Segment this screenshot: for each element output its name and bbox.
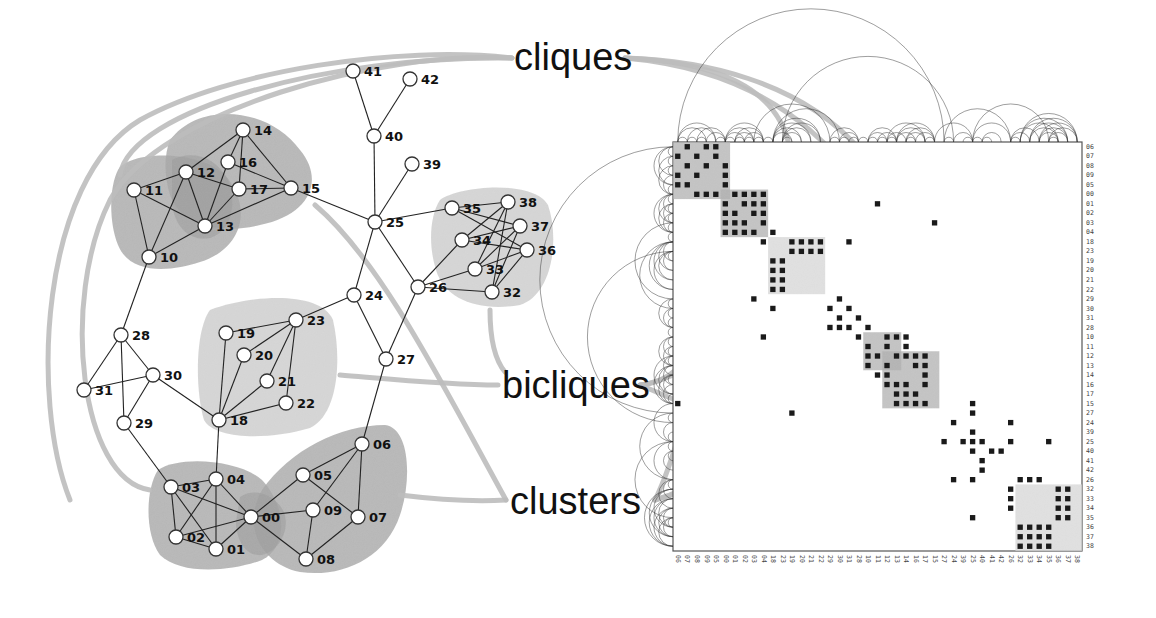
node-circle-icon[interactable] xyxy=(368,215,382,229)
matrix-cell[interactable] xyxy=(770,268,775,273)
matrix-cell[interactable] xyxy=(799,239,804,244)
matrix-cell[interactable] xyxy=(799,249,804,254)
matrix-cell[interactable] xyxy=(903,334,908,339)
matrix-cell[interactable] xyxy=(742,220,747,225)
matrix-cell[interactable] xyxy=(818,249,823,254)
matrix-cell[interactable] xyxy=(751,192,756,197)
node-circle-icon[interactable] xyxy=(296,468,310,482)
matrix-cell[interactable] xyxy=(846,325,851,330)
node-05[interactable]: 05 xyxy=(296,468,332,483)
matrix-cell[interactable] xyxy=(922,353,927,358)
matrix-cell[interactable] xyxy=(941,439,946,444)
matrix-cell[interactable] xyxy=(894,334,899,339)
node-circle-icon[interactable] xyxy=(468,262,482,276)
node-circle-icon[interactable] xyxy=(351,510,365,524)
matrix-cell[interactable] xyxy=(761,239,766,244)
node-37[interactable]: 37 xyxy=(513,219,549,234)
matrix-cell[interactable] xyxy=(875,201,880,206)
matrix-cell[interactable] xyxy=(713,154,718,159)
matrix-cell[interactable] xyxy=(1018,477,1023,482)
matrix-cell[interactable] xyxy=(723,182,728,187)
matrix-cell[interactable] xyxy=(884,334,889,339)
matrix-cell[interactable] xyxy=(884,344,889,349)
matrix-cell[interactable] xyxy=(913,363,918,368)
matrix-cell[interactable] xyxy=(1046,544,1051,549)
matrix-cell[interactable] xyxy=(970,439,975,444)
matrix-cell[interactable] xyxy=(1008,420,1013,425)
node-circle-icon[interactable] xyxy=(405,157,419,171)
matrix-cell[interactable] xyxy=(723,201,728,206)
node-19[interactable]: 19 xyxy=(219,326,255,341)
matrix-cell[interactable] xyxy=(1056,515,1061,520)
node-04[interactable]: 04 xyxy=(209,472,245,487)
matrix-cell[interactable] xyxy=(1056,496,1061,501)
matrix-cell[interactable] xyxy=(865,353,870,358)
node-36[interactable]: 36 xyxy=(520,243,556,258)
matrix-cell[interactable] xyxy=(1046,525,1051,530)
matrix-cell[interactable] xyxy=(846,306,851,311)
matrix-cell[interactable] xyxy=(827,306,832,311)
node-13[interactable]: 13 xyxy=(198,219,234,234)
matrix-cell[interactable] xyxy=(837,315,842,320)
matrix-cell[interactable] xyxy=(1056,506,1061,511)
matrix-cell[interactable] xyxy=(989,448,994,453)
node-18[interactable]: 18 xyxy=(212,413,248,428)
node-21[interactable]: 21 xyxy=(260,374,296,389)
node-circle-icon[interactable] xyxy=(379,352,393,366)
node-09[interactable]: 09 xyxy=(306,503,342,518)
matrix-cell[interactable] xyxy=(1065,515,1070,520)
matrix-cell[interactable] xyxy=(1056,487,1061,492)
matrix-cell[interactable] xyxy=(742,230,747,235)
node-circle-icon[interactable] xyxy=(260,374,274,388)
node-circle-icon[interactable] xyxy=(445,201,459,215)
matrix-cell[interactable] xyxy=(837,325,842,330)
matrix-cell[interactable] xyxy=(903,353,908,358)
matrix-cell[interactable] xyxy=(1027,534,1032,539)
node-circle-icon[interactable] xyxy=(485,285,499,299)
matrix-cell[interactable] xyxy=(685,163,690,168)
node-22[interactable]: 22 xyxy=(279,396,315,411)
node-17[interactable]: 17 xyxy=(232,182,268,197)
matrix-cell[interactable] xyxy=(770,230,775,235)
node-circle-icon[interactable] xyxy=(513,219,527,233)
matrix-cell[interactable] xyxy=(979,467,984,472)
matrix-cell[interactable] xyxy=(875,353,880,358)
matrix-cell[interactable] xyxy=(1065,496,1070,501)
matrix-cell[interactable] xyxy=(780,277,785,282)
matrix-cell[interactable] xyxy=(1018,544,1023,549)
node-02[interactable]: 02 xyxy=(169,530,205,545)
matrix-cell[interactable] xyxy=(723,173,728,178)
matrix-cell[interactable] xyxy=(1027,477,1032,482)
matrix-cell[interactable] xyxy=(1008,506,1013,511)
node-circle-icon[interactable] xyxy=(501,195,515,209)
matrix-cell[interactable] xyxy=(922,363,927,368)
node-circle-icon[interactable] xyxy=(142,250,156,264)
node-circle-icon[interactable] xyxy=(236,123,250,137)
node-circle-icon[interactable] xyxy=(244,510,258,524)
matrix-cell[interactable] xyxy=(751,211,756,216)
node-25[interactable]: 25 xyxy=(368,215,404,230)
matrix-cell[interactable] xyxy=(875,372,880,377)
node-35[interactable]: 35 xyxy=(445,201,481,216)
matrix-cell[interactable] xyxy=(751,296,756,301)
matrix-cell[interactable] xyxy=(770,258,775,263)
node-circle-icon[interactable] xyxy=(284,181,298,195)
matrix-cell[interactable] xyxy=(723,230,728,235)
matrix-cell[interactable] xyxy=(1008,439,1013,444)
matrix-cell[interactable] xyxy=(694,173,699,178)
matrix-cell[interactable] xyxy=(1037,544,1042,549)
matrix-cell[interactable] xyxy=(856,334,861,339)
node-circle-icon[interactable] xyxy=(411,280,425,294)
matrix-cell[interactable] xyxy=(704,192,709,197)
node-38[interactable]: 38 xyxy=(501,195,537,210)
matrix-cell[interactable] xyxy=(770,306,775,311)
matrix-cell[interactable] xyxy=(732,192,737,197)
matrix-cell[interactable] xyxy=(780,268,785,273)
matrix-cell[interactable] xyxy=(932,220,937,225)
matrix-cell[interactable] xyxy=(732,211,737,216)
matrix-cell[interactable] xyxy=(970,429,975,434)
node-circle-icon[interactable] xyxy=(346,64,360,78)
matrix-cell[interactable] xyxy=(761,334,766,339)
matrix-cell[interactable] xyxy=(903,401,908,406)
node-circle-icon[interactable] xyxy=(127,183,141,197)
